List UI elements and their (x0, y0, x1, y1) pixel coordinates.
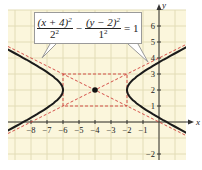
x-tick-label: −7 (42, 125, 51, 135)
x-tick-label: −5 (74, 125, 83, 135)
x-axis-label: x (195, 117, 200, 127)
x-axis-arrow-icon (188, 120, 194, 125)
x-tick-label: −1 (138, 125, 147, 135)
x-tick-label: −4 (90, 125, 100, 135)
numerator-2-exponent: 2 (117, 16, 121, 24)
equals-one: = 1 (124, 22, 138, 34)
y-tick-label: 1 (151, 101, 155, 111)
y-tick-label: 5 (151, 37, 155, 47)
minus-sign: − (76, 22, 82, 34)
y-tick-label: 6 (151, 21, 155, 31)
y-tick-label: 2 (151, 85, 155, 95)
equation-callout: (x + 4)2 22 − (y − 2)2 12 = 1 (34, 12, 142, 44)
denominator-2-exponent: 2 (104, 28, 108, 36)
denominator-1-exponent: 2 (56, 28, 60, 36)
y-axis-arrow-icon (157, 4, 162, 10)
numerator-1-exponent: 2 (68, 16, 72, 24)
x-tick-label: −8 (26, 125, 35, 135)
y-axis-label: y (161, 0, 166, 10)
x-tick-label: −2 (122, 125, 131, 135)
x-tick-label: −3 (106, 125, 115, 135)
fraction-2: (y − 2)2 12 (85, 17, 121, 40)
y-tick-label: −2 (146, 149, 155, 159)
x-tick-label: −6 (58, 125, 67, 135)
fraction-1: (x + 4)2 22 (37, 17, 73, 40)
y-tick-label: 3 (151, 69, 155, 79)
numerator-1: (x + 4) (38, 16, 69, 28)
center-point (92, 87, 98, 93)
numerator-2: (y − 2) (86, 16, 117, 28)
hyperbola-graph: xy−8−7−6−5−4−3−2−1−2123456 (x + 4)2 22 −… (0, 0, 202, 170)
